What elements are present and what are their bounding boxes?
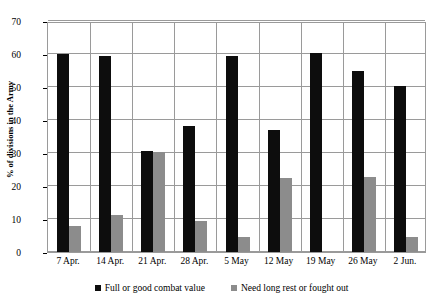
- gridline-horizontal: [48, 53, 425, 54]
- gridline-horizontal: [48, 20, 425, 21]
- gridline-vertical: [385, 23, 386, 252]
- bar: [280, 178, 292, 252]
- bar: [238, 237, 250, 252]
- gridline-vertical: [216, 23, 217, 252]
- y-tick-mark: [43, 253, 47, 254]
- bar: [69, 226, 81, 252]
- x-tick-label: 5 May: [215, 256, 257, 266]
- x-tick-label: 21 Apr.: [131, 256, 173, 266]
- legend-label: Full or good combat value: [105, 283, 205, 293]
- bar: [364, 177, 376, 252]
- y-axis-title: % of divisions in the Army: [0, 0, 20, 260]
- bar: [268, 130, 280, 252]
- y-axis-title-text: % of divisions in the Army: [5, 81, 15, 178]
- bar: [99, 56, 111, 252]
- bar: [195, 221, 207, 252]
- x-tick-label: 14 Apr.: [89, 256, 131, 266]
- gridline-vertical: [259, 23, 260, 252]
- gridline-vertical: [174, 23, 175, 252]
- bar: [352, 71, 364, 252]
- black-square-marker-icon: [95, 285, 101, 291]
- x-tick-label: 26 May: [342, 256, 384, 266]
- x-tick-label: 7 Apr.: [47, 256, 89, 266]
- bar: [141, 151, 153, 252]
- x-axis-labels: 7 Apr.14 Apr.21 Apr.28 Apr.5 May12 May19…: [47, 256, 426, 272]
- gridline-vertical: [132, 23, 133, 252]
- x-tick-label: 28 Apr.: [173, 256, 215, 266]
- legend-entry[interactable]: Full or good combat value: [95, 283, 205, 293]
- bar: [394, 86, 406, 252]
- x-tick-label: 12 May: [258, 256, 300, 266]
- legend-entry[interactable]: Need long rest or fought out: [231, 283, 348, 293]
- bar: [153, 152, 165, 252]
- bar: [111, 215, 123, 252]
- gridline-vertical: [343, 23, 344, 252]
- x-tick-label: 2 Jun.: [384, 256, 426, 266]
- gridline-vertical: [90, 23, 91, 252]
- gridline-vertical: [301, 23, 302, 252]
- bar: [183, 126, 195, 252]
- bar: [406, 237, 418, 252]
- plot-area: [47, 22, 426, 253]
- bar: [226, 56, 238, 252]
- gray-square-marker-icon: [231, 285, 237, 291]
- bar: [57, 54, 69, 252]
- chart-legend: Full or good combat valueNeed long rest …: [0, 283, 443, 293]
- chart-container: % of divisions in the Army 0102030405060…: [0, 0, 443, 307]
- bar: [310, 53, 322, 252]
- legend-label: Need long rest or fought out: [241, 283, 348, 293]
- x-tick-label: 19 May: [300, 256, 342, 266]
